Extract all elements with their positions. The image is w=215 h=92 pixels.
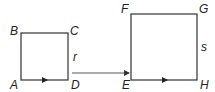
small-square [21, 33, 68, 83]
vertex-label-c: C [70, 24, 79, 38]
vertex-label-a: A [9, 78, 18, 92]
side-label-s: s [201, 40, 207, 54]
vertex-label-d: D [71, 78, 80, 92]
vertex-label-b: B [10, 24, 18, 38]
direction-arrow-icon [162, 77, 168, 83]
side-label-r: r [73, 50, 78, 64]
square-transformation-diagram: B C D A r F G H E s [0, 0, 215, 92]
vertex-label-e: E [122, 78, 131, 92]
large-square [131, 14, 197, 83]
vertex-label-g: G [199, 2, 208, 16]
vertex-label-f: F [121, 2, 129, 16]
vertex-label-h: H [200, 78, 209, 92]
direction-arrow-icon [42, 77, 48, 83]
